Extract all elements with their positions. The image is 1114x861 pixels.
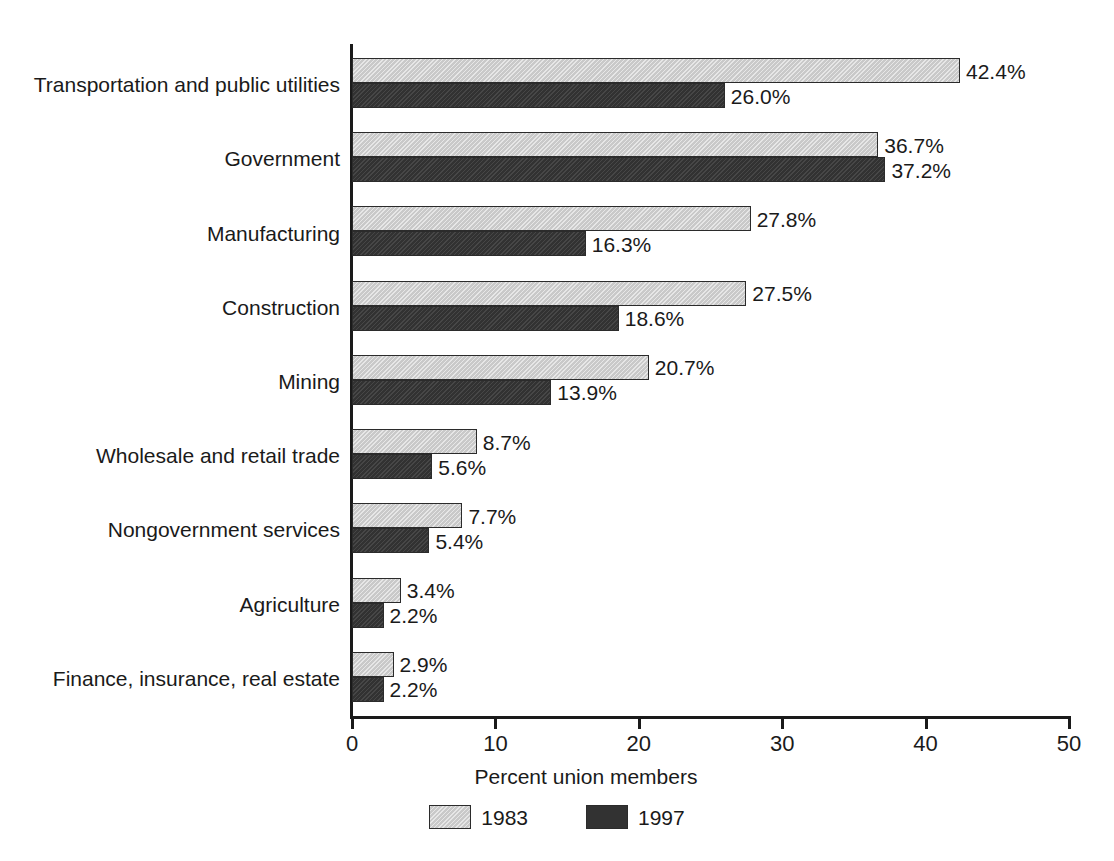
bar-value-label: 2.9% (400, 654, 448, 675)
category-label: Government (224, 148, 340, 169)
x-tick-label: 10 (483, 733, 507, 755)
legend-item-1997: 1997 (586, 805, 685, 829)
bar-1997: 16.3% (352, 231, 586, 256)
bar-1997: 13.9% (352, 380, 551, 405)
bar-1983: 27.8% (352, 206, 751, 231)
category-row: Manufacturing27.8%16.3% (352, 195, 1069, 269)
x-tick-label: 50 (1057, 733, 1081, 755)
bar-value-label: 37.2% (891, 159, 951, 180)
x-tick-label: 30 (770, 733, 794, 755)
category-row: Nongovernment services7.7%5.4% (352, 492, 1069, 566)
category-row: Mining20.7%13.9% (352, 344, 1069, 418)
category-row: Government36.7%37.2% (352, 121, 1069, 195)
bar-1997: 5.6% (352, 454, 432, 479)
bar-value-label: 13.9% (557, 382, 617, 403)
x-tick (1068, 716, 1071, 729)
bar-1983: 42.4% (352, 58, 960, 83)
bar-value-label: 26.0% (731, 85, 791, 106)
bar-1997: 2.2% (352, 677, 384, 702)
category-label: Transportation and public utilities (34, 74, 340, 95)
legend-swatch-1997 (586, 805, 628, 829)
x-tick-label: 20 (627, 733, 651, 755)
bar-1997: 18.6% (352, 306, 619, 331)
category-label: Wholesale and retail trade (96, 445, 340, 466)
bar-value-label: 16.3% (592, 233, 652, 254)
x-tick (781, 716, 784, 729)
legend-swatch-1983 (429, 805, 471, 829)
category-label: Finance, insurance, real estate (53, 667, 340, 688)
category-label: Construction (222, 296, 340, 317)
bar-1983: 7.7% (352, 503, 462, 528)
category-row: Construction27.5%18.6% (352, 270, 1069, 344)
category-row: Transportation and public utilities42.4%… (352, 47, 1069, 121)
bar-value-label: 5.4% (435, 530, 483, 551)
x-tick (638, 716, 641, 729)
legend-label-1983: 1983 (481, 807, 528, 828)
category-label: Agriculture (240, 593, 340, 614)
chart-legend: 1983 1997 (0, 805, 1114, 829)
bar-value-label: 27.5% (752, 283, 812, 304)
bar-value-label: 5.6% (438, 456, 486, 477)
category-row: Finance, insurance, real estate2.9%2.2% (352, 641, 1069, 715)
bar-1997: 2.2% (352, 603, 384, 628)
x-tick-label: 0 (346, 733, 358, 755)
bar-chart: Transportation and public utilities42.4%… (0, 0, 1114, 861)
bar-value-label: 3.4% (407, 580, 455, 601)
x-tick (351, 716, 354, 729)
category-label: Mining (278, 370, 340, 391)
x-axis-title-text: Percent union members (475, 765, 698, 789)
bar-value-label: 20.7% (655, 357, 715, 378)
legend-label-1997: 1997 (638, 807, 685, 828)
bar-value-label: 42.4% (966, 60, 1026, 81)
bar-value-label: 7.7% (468, 505, 516, 526)
bar-value-label: 2.2% (390, 605, 438, 626)
bar-1983: 27.5% (352, 281, 746, 306)
bar-value-label: 27.8% (757, 208, 817, 229)
bar-1997: 37.2% (352, 157, 885, 182)
bar-1983: 8.7% (352, 429, 477, 454)
bar-value-label: 36.7% (884, 134, 944, 155)
x-axis-title: Percent union members (0, 765, 1114, 789)
x-axis-line (350, 716, 1071, 719)
x-tick (925, 716, 928, 729)
category-label: Nongovernment services (108, 519, 340, 540)
bar-1983: 36.7% (352, 132, 878, 157)
plot-area: Transportation and public utilities42.4%… (352, 47, 1069, 715)
bar-value-label: 18.6% (625, 308, 685, 329)
bar-1983: 3.4% (352, 578, 401, 603)
bar-1997: 5.4% (352, 528, 429, 553)
bar-value-label: 2.2% (390, 679, 438, 700)
bar-1983: 2.9% (352, 652, 394, 677)
bar-1997: 26.0% (352, 83, 725, 108)
x-tick (494, 716, 497, 729)
bar-value-label: 8.7% (483, 431, 531, 452)
category-row: Agriculture3.4%2.2% (352, 567, 1069, 641)
category-label: Manufacturing (207, 222, 340, 243)
x-tick-label: 40 (913, 733, 937, 755)
bar-1983: 20.7% (352, 355, 649, 380)
legend-item-1983: 1983 (429, 805, 528, 829)
category-row: Wholesale and retail trade8.7%5.6% (352, 418, 1069, 492)
